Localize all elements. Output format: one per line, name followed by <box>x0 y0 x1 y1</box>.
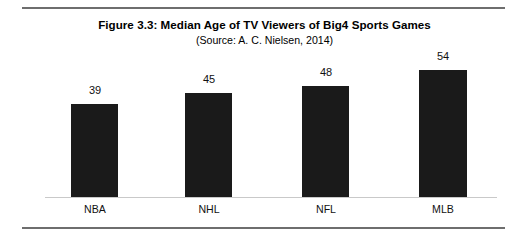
bar-value-label: 48 <box>288 66 364 79</box>
bar-category-label: NFL <box>288 203 364 216</box>
bar-rect <box>419 70 467 197</box>
x-axis-baseline <box>45 197 497 198</box>
figure-container: Figure 3.3: Median Age of TV Viewers of … <box>0 0 529 243</box>
chart-plot-area: 39 NBA 45 NHL 48 NFL 54 MLB <box>0 0 529 243</box>
bar-category-label: NHL <box>171 203 247 216</box>
bar-category-label: MLB <box>405 203 481 216</box>
figure-bottom-rule <box>22 227 505 229</box>
bar-rect <box>302 86 349 197</box>
bar-rect <box>185 93 232 197</box>
bar-rect <box>71 104 118 197</box>
bar-value-label: 54 <box>405 50 481 63</box>
bar-value-label: 45 <box>171 73 247 86</box>
bar-category-label: NBA <box>57 203 133 216</box>
bar-value-label: 39 <box>57 84 133 97</box>
